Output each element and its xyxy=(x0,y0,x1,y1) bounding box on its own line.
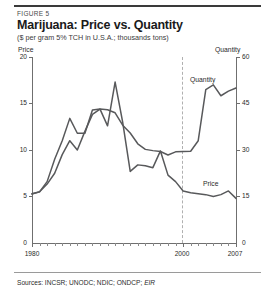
sources-line: Sources: INCSR; UNODC; NDIC; ONDCP; EIR xyxy=(17,279,155,286)
figure-panel: FIGURE 5 Marijuana: Price vs. Quantity (… xyxy=(0,0,275,296)
sources-text: Sources: INCSR; UNODC; NDIC; ONDCP; xyxy=(17,279,144,286)
bottom-rule xyxy=(14,272,261,273)
quantity-series-label: Quantity xyxy=(190,76,215,83)
sources-italic: EIR xyxy=(144,279,155,286)
price-series-label: Price xyxy=(203,180,219,187)
chart-curves xyxy=(0,0,275,296)
